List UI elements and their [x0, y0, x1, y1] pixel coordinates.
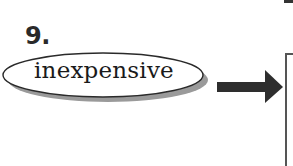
right-arrow-icon	[217, 70, 283, 103]
word-oval	[0, 0, 293, 166]
answer-box[interactable]	[285, 53, 293, 166]
vocabulary-word: inexpensive	[0, 57, 208, 83]
